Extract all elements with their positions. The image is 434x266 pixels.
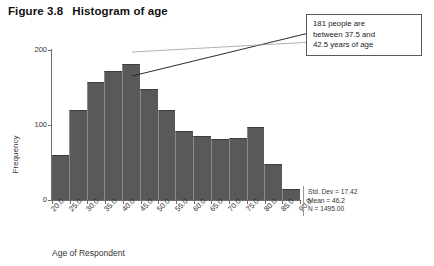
stat-n: N = 1495.00 (308, 205, 383, 214)
histogram-bars (52, 50, 300, 200)
histogram-bar (104, 71, 122, 200)
callout-line-1: 181 people are (313, 19, 416, 30)
histogram-bar (122, 64, 140, 200)
callout-line-2: between 37.5 and (313, 30, 416, 41)
callout-annotation-box: 181 people are between 37.5 and 42.5 yea… (306, 14, 422, 56)
y-tick-label: 200 (34, 45, 47, 54)
histogram-bar (264, 164, 282, 200)
histogram-bar (140, 89, 158, 200)
histogram-bar (247, 127, 265, 200)
plot-area (52, 50, 300, 200)
histogram-bar (87, 82, 105, 200)
histogram-bar (229, 138, 247, 200)
y-axis-title: Frequency (11, 120, 20, 190)
callout-line-3: 42.5 years of age (313, 40, 416, 51)
histogram-bar (158, 110, 176, 200)
statistics-box: Std. Dev = 17.42 Mean = 46.2 N = 1495.00 (303, 186, 383, 216)
histogram-bar (175, 131, 193, 200)
y-tick-label: 100 (34, 120, 47, 129)
histogram-bar (193, 136, 211, 200)
histogram-bar (69, 110, 87, 200)
histogram-bar (211, 139, 229, 201)
y-tick-label: 0 (43, 195, 47, 204)
y-axis-ticks: 200 100 0 (0, 0, 47, 266)
x-axis-title: Age of Respondent (52, 248, 125, 258)
callout-annotation-text: 181 people are between 37.5 and 42.5 yea… (313, 19, 416, 51)
figure-title: Histogram of age (72, 5, 168, 17)
x-axis-ticks: 20.025.030.035.040.045.050.055.060.065.0… (52, 200, 300, 246)
stat-mean: Mean = 46.2 (308, 197, 383, 206)
stat-std-dev: Std. Dev = 17.42 (308, 188, 383, 197)
histogram-bar (52, 155, 69, 200)
